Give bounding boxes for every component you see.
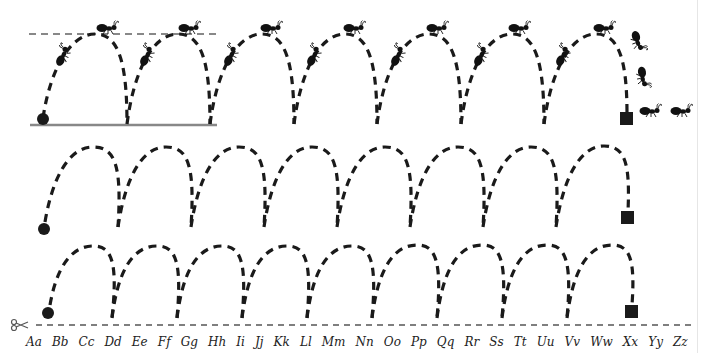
letter-pair: Gg — [181, 335, 198, 353]
letter-pair: Uu — [537, 335, 555, 353]
start-dot-row-3 — [42, 307, 54, 319]
letter-pair: Aa — [26, 335, 42, 353]
end-square-row-3 — [625, 305, 638, 318]
letter-pair: Jj — [255, 335, 264, 353]
scissors-icon — [12, 320, 29, 331]
letter-pair: Hh — [208, 335, 226, 353]
letter-pair: Ww — [590, 335, 613, 353]
letter-pair: Pp — [411, 335, 427, 353]
start-dot-row-2 — [38, 223, 50, 235]
letter-pair: Kk — [274, 335, 290, 353]
letter-pair: Nn — [356, 335, 374, 353]
letter-pair: Xx — [623, 335, 638, 353]
letter-pair: Vv — [565, 335, 580, 353]
letter-pair: Cc — [78, 335, 94, 353]
end-square-row-1 — [620, 112, 633, 125]
tracing-worksheet: Aa Bb Cc Dd Ee Ff Gg Hh Ii Jj Kk Ll Mm N… — [0, 0, 714, 353]
letter-pair: Oo — [384, 335, 401, 353]
letter-pair: Ff — [158, 335, 171, 353]
end-square-row-2 — [621, 211, 634, 224]
letter-pair: Yy — [648, 335, 663, 353]
letter-pair: Zz — [673, 335, 688, 353]
letter-pair: Tt — [514, 335, 527, 353]
start-dot-row-1 — [37, 113, 49, 125]
page-edge — [697, 0, 698, 353]
letter-pair: Ee — [132, 335, 148, 353]
letter-pair: Rr — [464, 335, 479, 353]
letter-pair: Mm — [322, 335, 346, 353]
letter-pair: Ii — [236, 335, 245, 353]
worksheet-drawing — [0, 0, 714, 353]
letter-pair: Dd — [104, 335, 121, 353]
letter-pair: Ss — [489, 335, 503, 353]
letter-pair: Bb — [52, 335, 69, 353]
letter-pair: Ll — [300, 335, 312, 353]
alphabet-strip: Aa Bb Cc Dd Ee Ff Gg Hh Ii Jj Kk Ll Mm N… — [0, 335, 714, 353]
letter-pair: Qq — [437, 335, 455, 353]
